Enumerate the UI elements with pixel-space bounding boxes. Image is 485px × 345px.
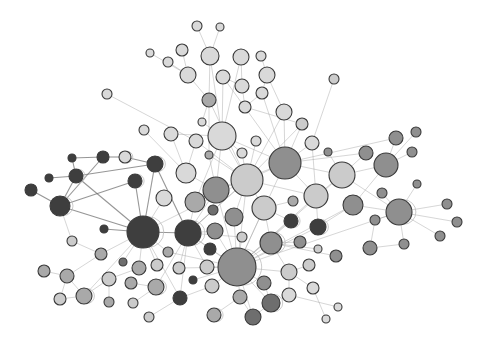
graph-node — [359, 146, 373, 160]
graph-node — [200, 260, 214, 274]
graph-node — [25, 184, 37, 196]
graph-node — [216, 70, 230, 84]
graph-edge — [289, 295, 338, 307]
graph-node — [251, 136, 261, 146]
graph-node — [189, 134, 203, 148]
graph-node — [329, 74, 339, 84]
node-layer — [25, 21, 462, 325]
graph-node — [259, 67, 275, 83]
graph-node — [144, 312, 154, 322]
graph-node — [225, 208, 243, 226]
graph-node — [237, 148, 247, 158]
graph-node — [38, 265, 50, 277]
graph-node — [128, 174, 142, 188]
graph-node — [407, 147, 417, 157]
graph-node — [189, 276, 197, 284]
graph-node — [442, 199, 452, 209]
graph-edge — [312, 79, 334, 143]
graph-node — [127, 216, 159, 248]
graph-node — [389, 131, 403, 145]
graph-node — [208, 122, 236, 150]
graph-node — [119, 258, 127, 266]
graph-node — [173, 291, 187, 305]
graph-node — [128, 298, 138, 308]
graph-node — [146, 49, 154, 57]
graph-node — [322, 315, 330, 323]
graph-node — [257, 276, 271, 290]
graph-node — [125, 277, 137, 289]
graph-node — [399, 239, 409, 249]
graph-node — [198, 118, 206, 126]
graph-node — [45, 174, 53, 182]
graph-node — [185, 192, 205, 212]
graph-node — [370, 215, 380, 225]
graph-node — [205, 279, 219, 293]
graph-node — [435, 231, 445, 241]
graph-node — [334, 303, 342, 311]
graph-node — [307, 282, 319, 294]
graph-node — [156, 190, 172, 206]
graph-node — [245, 309, 261, 325]
graph-node — [281, 264, 297, 280]
graph-node — [208, 205, 218, 215]
graph-node — [256, 87, 268, 99]
graph-node — [304, 184, 328, 208]
graph-node — [452, 217, 462, 227]
graph-node — [256, 51, 266, 61]
graph-node — [296, 118, 308, 130]
graph-node — [132, 261, 146, 275]
graph-node — [180, 67, 196, 83]
graph-node — [252, 196, 276, 220]
graph-node — [305, 136, 319, 150]
graph-node — [97, 151, 109, 163]
graph-node — [284, 214, 298, 228]
graph-node — [148, 279, 164, 295]
graph-node — [233, 290, 247, 304]
graph-node — [203, 177, 229, 203]
graph-node — [413, 180, 421, 188]
graph-node — [67, 236, 77, 246]
graph-node — [54, 293, 66, 305]
graph-node — [269, 147, 301, 179]
graph-node — [377, 188, 387, 198]
graph-node — [76, 288, 92, 304]
graph-node — [102, 89, 112, 99]
graph-node — [231, 164, 263, 196]
network-graph — [0, 0, 485, 345]
graph-node — [239, 101, 251, 113]
graph-node — [235, 79, 249, 93]
graph-node — [151, 259, 163, 271]
graph-node — [374, 153, 398, 177]
graph-node — [207, 308, 221, 322]
graph-node — [288, 196, 298, 206]
graph-node — [363, 241, 377, 255]
graph-edge — [107, 94, 196, 141]
graph-node — [237, 232, 247, 242]
graph-node — [139, 125, 149, 135]
graph-node — [100, 225, 108, 233]
graph-node — [163, 57, 173, 67]
graph-node — [260, 232, 282, 254]
graph-node — [147, 156, 163, 172]
graph-node — [119, 151, 131, 163]
graph-node — [163, 247, 173, 257]
graph-node — [386, 199, 412, 225]
graph-node — [324, 148, 332, 156]
graph-node — [202, 93, 216, 107]
graph-node — [104, 297, 114, 307]
graph-node — [204, 243, 216, 255]
graph-node — [192, 21, 202, 31]
graph-node — [176, 44, 188, 56]
graph-node — [173, 262, 185, 274]
graph-node — [69, 169, 83, 183]
graph-node — [233, 49, 249, 65]
graph-node — [60, 269, 74, 283]
graph-edge — [245, 107, 302, 124]
graph-node — [330, 250, 342, 262]
graph-node — [314, 245, 322, 253]
graph-node — [164, 127, 178, 141]
graph-node — [329, 162, 355, 188]
graph-node — [411, 127, 421, 137]
graph-node — [68, 154, 76, 162]
graph-node — [218, 248, 256, 286]
